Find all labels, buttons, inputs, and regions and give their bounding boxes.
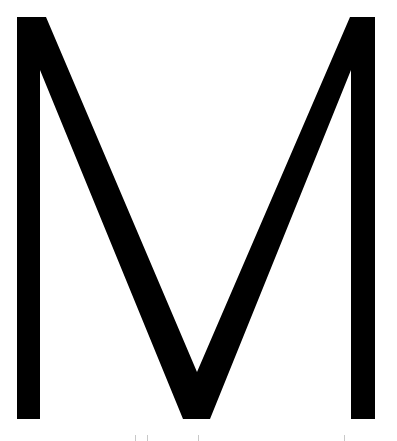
letter-m-glyph: [0, 0, 397, 441]
tick-mark: [198, 435, 199, 441]
tick-mark: [147, 435, 148, 441]
tick-mark: [135, 435, 136, 441]
tick-mark: [344, 435, 345, 441]
